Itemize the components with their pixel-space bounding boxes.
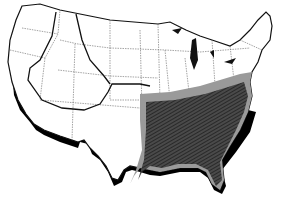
us-map — [0, 0, 282, 198]
